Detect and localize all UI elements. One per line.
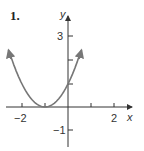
tick-label-neg1: −1	[53, 124, 66, 136]
x-axis-label: x	[126, 111, 133, 123]
parabola-graph: −2 2 3 −1 x y	[0, 0, 144, 151]
y-axis-label: y	[59, 8, 67, 20]
tick-label-neg2: −2	[14, 112, 27, 124]
tick-label-2: 2	[111, 112, 117, 124]
tick-label-3: 3	[57, 30, 63, 42]
